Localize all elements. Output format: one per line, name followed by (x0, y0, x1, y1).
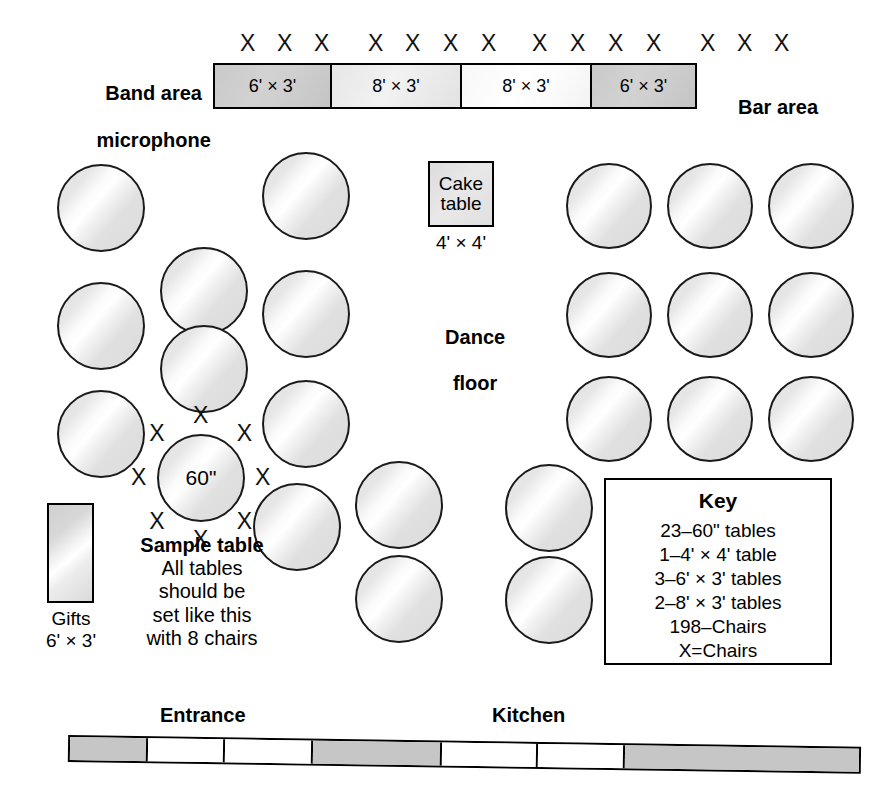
key-legend-box: Key 23–60" tables1–4' × 4' table3–6' × 3… (604, 478, 832, 665)
gifts-table (47, 503, 94, 603)
round-table (262, 270, 350, 358)
round-table (667, 376, 753, 462)
sample-table-chair-mark-2: X (237, 422, 252, 445)
key-line-5: 198–Chairs (606, 615, 830, 639)
band-chair-mark-5: X (405, 32, 420, 55)
key-line-1: 23–60" tables (606, 519, 830, 543)
wall-segment-3 (225, 739, 313, 763)
band-chair-mark-12: X (700, 32, 715, 55)
sample-table-diameter: 60" (159, 466, 243, 490)
band-area-label-line2: microphone (96, 129, 210, 151)
band-table-1-size: 6' × 3' (249, 76, 296, 97)
key-line-3: 3–6' × 3' tables (606, 567, 830, 591)
floor-plan-diagram: Band area microphone Bar area XXXXXXXXXX… (0, 0, 888, 791)
wall-segment-2 (147, 738, 225, 762)
band-chair-mark-6: X (443, 32, 458, 55)
sample-table-chair-mark-3: X (255, 466, 270, 489)
round-table (505, 464, 593, 552)
sample-table-caption-heading: Sample table (106, 534, 298, 557)
sample-table-chair-mark-7: X (131, 466, 146, 489)
wall-segment-6 (537, 744, 625, 768)
round-table (768, 376, 854, 462)
round-table (355, 461, 443, 549)
sample-table: 60" (157, 434, 245, 522)
key-line-6: X=Chairs (606, 639, 830, 663)
round-table (667, 272, 753, 358)
wall-segment-1 (70, 737, 148, 761)
round-table (262, 152, 350, 240)
gifts-table-dimension: 6' × 3' (46, 630, 96, 651)
sample-table-chair-mark-6: X (149, 510, 164, 533)
round-table (160, 325, 248, 413)
sample-table-caption-line4: with 8 chairs (146, 627, 257, 649)
entrance-label: Entrance (160, 704, 246, 726)
bottom-wall-strip (68, 735, 861, 774)
sample-table-caption-line2: should be (159, 580, 246, 602)
key-line-2: 1–4' × 4' table (606, 543, 830, 567)
band-chair-mark-11: X (646, 32, 661, 55)
band-chair-mark-2: X (277, 32, 292, 55)
band-table-2: 8' × 3' (332, 65, 462, 107)
band-table-4-size: 6' × 3' (620, 76, 667, 97)
sample-table-chair-mark-1: X (193, 404, 208, 427)
key-title: Key (606, 488, 830, 514)
band-chair-mark-7: X (481, 32, 496, 55)
round-table (57, 282, 145, 370)
band-table-1: 6' × 3' (215, 65, 332, 107)
key-line-4: 2–8' × 3' tables (606, 591, 830, 615)
dance-floor-label-line2: floor (453, 372, 497, 394)
round-table (566, 272, 652, 358)
gifts-table-name: Gifts (51, 608, 90, 629)
round-table (505, 556, 593, 644)
band-table-4: 6' × 3' (592, 65, 695, 107)
round-table (768, 163, 854, 249)
kitchen-label: Kitchen (492, 704, 565, 726)
round-table (57, 164, 145, 252)
round-table (566, 163, 652, 249)
wall-segment-7 (625, 745, 859, 771)
cake-table: Cake table (428, 161, 494, 227)
dance-floor-label-line1: Dance (445, 326, 505, 348)
band-chair-mark-14: X (774, 32, 789, 55)
round-table (160, 247, 248, 335)
band-table-2-size: 8' × 3' (372, 76, 419, 97)
band-chair-mark-13: X (737, 32, 752, 55)
wall-segment-5 (442, 743, 538, 767)
band-area-label-line1: Band area (105, 82, 202, 104)
band-chair-mark-4: X (368, 32, 383, 55)
round-table (355, 555, 443, 643)
cake-table-dimension: 4' × 4' (420, 232, 502, 254)
key-lines: 23–60" tables1–4' × 4' table3–6' × 3' ta… (606, 519, 830, 663)
band-area-rectangular-tables: 6' × 3'8' × 3'8' × 3'6' × 3' (213, 63, 697, 109)
sample-table-caption-line3: set like this (153, 604, 252, 626)
sample-table-chair-mark-4: X (237, 510, 252, 533)
sample-table-caption: Sample table All tables should be set li… (106, 534, 298, 650)
sample-table-caption-line1: All tables (161, 557, 242, 579)
gifts-table-caption: Gifts 6' × 3' (23, 608, 119, 653)
band-area-label: Band area microphone (60, 58, 225, 176)
band-table-3: 8' × 3' (462, 65, 592, 107)
band-chair-mark-10: X (608, 32, 623, 55)
dance-floor-label: Dance floor (404, 303, 524, 418)
band-chair-mark-1: X (240, 32, 255, 55)
round-table (768, 272, 854, 358)
bar-area-label: Bar area (738, 96, 818, 118)
band-chair-mark-9: X (570, 32, 585, 55)
round-table (667, 163, 753, 249)
wall-segment-4 (313, 741, 443, 766)
band-chair-mark-8: X (532, 32, 547, 55)
cake-table-line1: Cake (439, 174, 483, 194)
band-table-3-size: 8' × 3' (502, 76, 549, 97)
band-chair-mark-3: X (314, 32, 329, 55)
round-table (262, 380, 350, 468)
sample-table-chair-mark-8: X (149, 422, 164, 445)
cake-table-line2: table (440, 194, 481, 214)
round-table (566, 376, 652, 462)
